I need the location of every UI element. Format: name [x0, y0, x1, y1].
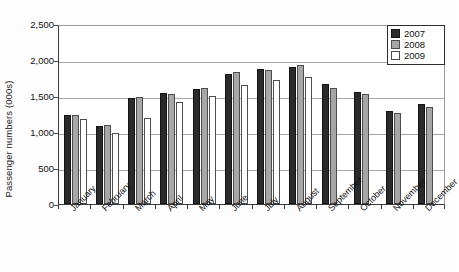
bar-2009-june: [241, 85, 248, 204]
y-tick-label: 2,500: [18, 20, 54, 30]
y-tick-label: 1,000: [18, 128, 54, 138]
bar-2007-january: [64, 115, 71, 204]
bar-2008-september: [330, 88, 337, 204]
bar-group: [257, 26, 280, 204]
bar-2008-july: [265, 70, 272, 204]
bar-group: [225, 26, 248, 204]
y-tick-mark: [54, 97, 58, 98]
bar-group: [64, 26, 87, 204]
legend-item-2007: 2007: [391, 28, 441, 39]
legend-label-2008: 2008: [404, 40, 425, 50]
bar-group: [193, 26, 216, 204]
bar-2008-november: [394, 113, 401, 204]
bar-2008-may: [201, 88, 208, 204]
bar-2007-may: [193, 89, 200, 204]
legend-swatch-2007: [391, 29, 400, 38]
y-tick-mark: [54, 205, 58, 206]
bar-2009-july: [273, 80, 280, 204]
bar-2007-july: [257, 69, 264, 204]
bar-2008-december: [426, 107, 433, 204]
y-tick-mark: [54, 61, 58, 62]
bar-2008-october: [362, 94, 369, 204]
bar-2009-april: [176, 102, 183, 204]
bar-2008-february: [104, 125, 111, 204]
x-axis-tick-labels: JanuaryFebruaryMarchAprilMayJuneJulyAugu…: [58, 206, 449, 272]
bar-group: [128, 26, 151, 204]
bar-2008-june: [233, 72, 240, 204]
bar-2008-january: [72, 115, 79, 204]
y-tick-label: 500: [18, 164, 54, 174]
bar-2007-june: [225, 74, 232, 204]
y-tick-mark: [54, 133, 58, 134]
legend-item-2008: 2008: [391, 39, 441, 50]
y-axis-tick-labels: 05001,0001,5002,0002,500: [14, 0, 54, 272]
bar-group: [322, 26, 345, 204]
legend-swatch-2008: [391, 40, 400, 49]
bar-2008-april: [168, 94, 175, 204]
bar-2007-february: [96, 126, 103, 204]
legend-label-2007: 2007: [404, 29, 425, 39]
bar-2007-april: [160, 93, 167, 204]
bar-2007-august: [289, 67, 296, 204]
bar-2008-august: [297, 65, 304, 204]
legend-swatch-2009: [391, 51, 400, 60]
bar-2009-may: [209, 96, 216, 204]
bar-group: [289, 26, 312, 204]
legend-label-2009: 2009: [404, 51, 425, 61]
y-tick-label: 2,000: [18, 56, 54, 66]
bar-2009-august: [305, 77, 312, 204]
y-tick-mark: [54, 169, 58, 170]
y-tick-label: 0: [18, 200, 54, 210]
legend: 200720082009: [387, 25, 445, 65]
bar-2007-september: [322, 84, 329, 204]
y-tick-label: 1,500: [18, 92, 54, 102]
y-tick-mark: [54, 25, 58, 26]
legend-item-2009: 2009: [391, 50, 441, 61]
bar-2008-march: [136, 97, 143, 204]
bar-group: [96, 26, 119, 204]
bar-group: [160, 26, 183, 204]
